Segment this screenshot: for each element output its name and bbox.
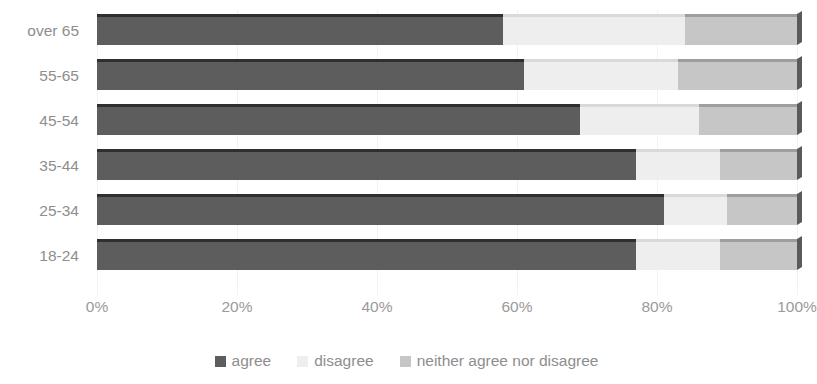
y-axis-label-over-65: over 65	[27, 23, 79, 39]
bar-segment-top-face	[636, 239, 720, 242]
bar-end-cap	[797, 191, 802, 225]
legend-swatch-icon	[215, 356, 226, 367]
bar-segment-disagree	[664, 197, 727, 225]
bar-end-cap	[797, 56, 802, 90]
y-axis-label-45-54: 45-54	[39, 113, 79, 129]
bar-segment-agree	[97, 242, 636, 270]
chart-legend: agreedisagreeneither agree nor disagree	[0, 352, 813, 370]
bar-segment-top-face	[503, 14, 685, 17]
bar-segment-top-face	[664, 194, 727, 197]
bar-segment-neither	[685, 17, 797, 45]
legend-label: neither agree nor disagree	[417, 352, 599, 370]
x-axis-tick-labels: 0%20%40%60%80%100%	[97, 298, 797, 324]
bar-segment-neither	[720, 152, 797, 180]
bar-row	[97, 62, 797, 90]
bar-segment-disagree	[636, 242, 720, 270]
x-axis-tick-0: 0%	[86, 298, 108, 316]
bar-segment-top-face	[97, 14, 503, 17]
bar-segment-agree	[97, 152, 636, 180]
y-axis-category-labels: over 65 55-65 45-54 35-44 25-34 18-24	[0, 10, 88, 295]
x-axis-tick-80: 80%	[641, 298, 672, 316]
bar-end-cap	[797, 146, 802, 180]
bar-segment-top-face	[720, 149, 797, 152]
bar-row	[97, 152, 797, 180]
bar-segment-top-face	[727, 194, 797, 197]
bar-segment-agree	[97, 62, 524, 90]
bar-segment-agree	[97, 197, 664, 225]
bar-segment-top-face	[720, 239, 797, 242]
bar-segment-top-face	[97, 149, 636, 152]
bar-segment-disagree	[580, 107, 699, 135]
bar-end-cap	[797, 236, 802, 270]
plot-area	[97, 10, 797, 295]
bar-row	[97, 197, 797, 225]
bar-segment-neither	[678, 62, 797, 90]
bar-end-cap	[797, 101, 802, 135]
legend-item-agree[interactable]: agree	[215, 352, 272, 370]
y-axis-label-18-24: 18-24	[39, 248, 79, 264]
bar-segment-top-face	[678, 59, 797, 62]
x-axis-tick-100: 100%	[777, 298, 817, 316]
bar-segment-top-face	[97, 104, 580, 107]
bar-segment-top-face	[685, 14, 797, 17]
bar-segment-top-face	[97, 59, 524, 62]
y-axis-label-25-34: 25-34	[39, 203, 79, 219]
x-axis-tick-20: 20%	[221, 298, 252, 316]
bar-segment-neither	[727, 197, 797, 225]
bar-segment-neither	[720, 242, 797, 270]
y-axis-label-35-44: 35-44	[39, 158, 79, 174]
legend-swatch-icon	[297, 356, 308, 367]
bar-segment-neither	[699, 107, 797, 135]
bar-segment-disagree	[524, 62, 678, 90]
bar-row	[97, 17, 797, 45]
bar-end-cap	[797, 11, 802, 45]
legend-item-neither[interactable]: neither agree nor disagree	[400, 352, 599, 370]
legend-label: agree	[232, 352, 272, 370]
x-axis-tick-60: 60%	[501, 298, 532, 316]
bar-row	[97, 107, 797, 135]
legend-label: disagree	[314, 352, 373, 370]
bar-segment-agree	[97, 17, 503, 45]
bar-segment-top-face	[636, 149, 720, 152]
x-axis-tick-40: 40%	[361, 298, 392, 316]
bar-row	[97, 242, 797, 270]
bar-segment-disagree	[636, 152, 720, 180]
bar-segment-top-face	[580, 104, 699, 107]
y-axis-label-55-65: 55-65	[39, 68, 79, 84]
legend-item-disagree[interactable]: disagree	[297, 352, 373, 370]
legend-swatch-icon	[400, 356, 411, 367]
bar-segment-top-face	[97, 239, 636, 242]
bar-segment-top-face	[97, 194, 664, 197]
bar-segment-disagree	[503, 17, 685, 45]
bar-segment-top-face	[524, 59, 678, 62]
bar-segment-agree	[97, 107, 580, 135]
bar-segment-top-face	[699, 104, 797, 107]
